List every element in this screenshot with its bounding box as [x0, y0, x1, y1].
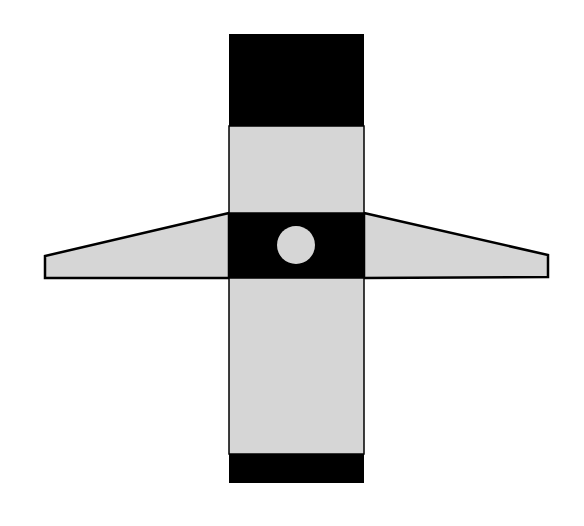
top-black-block — [229, 34, 364, 126]
center-circle — [277, 226, 315, 264]
upper-light-block — [229, 126, 364, 213]
lower-light-block — [229, 278, 364, 454]
bottom-black-block — [229, 454, 364, 483]
cross-diagram — [0, 0, 584, 526]
